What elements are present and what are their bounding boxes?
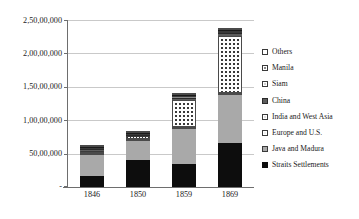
bar-segment-java-and-madura <box>126 140 150 160</box>
legend-swatch-india-and-west-asia-icon <box>262 114 268 120</box>
y-axis-tick-label: 2,00,00,000 <box>0 50 62 58</box>
bar-segment-straits-settlements <box>80 176 104 187</box>
x-axis-tick-label: 1869 <box>210 190 250 200</box>
legend-item-manila[interactable]: Manila <box>262 60 358 76</box>
stacked-bar-chart: 2,50,00,000 2,00,00,000 1,50,00,000 1,00… <box>0 0 359 219</box>
bar-segment-java-and-madura <box>218 94 242 143</box>
bar-1869[interactable] <box>218 28 242 187</box>
legend-item-europe-and-us[interactable]: Europe and U.S. <box>262 125 358 141</box>
y-axis-tick <box>64 20 68 21</box>
chart-legend: Others Manila Siam China India and West … <box>262 44 358 174</box>
y-axis-tick-label: 1,50,00,000 <box>0 83 62 91</box>
legend-swatch-others-icon <box>262 49 268 55</box>
legend-item-others[interactable]: Others <box>262 44 358 60</box>
y-axis-tick <box>64 53 68 54</box>
x-axis-tick-label: 1859 <box>164 190 204 200</box>
legend-label: Siam <box>272 80 288 88</box>
legend-swatch-siam-icon <box>262 81 268 87</box>
legend-label: India and West Asia <box>272 113 333 121</box>
legend-item-china[interactable]: China <box>262 93 358 109</box>
bar-1850[interactable] <box>126 131 150 187</box>
x-axis-tick-label: 1850 <box>118 190 158 200</box>
legend-label: Manila <box>272 64 294 72</box>
legend-item-siam[interactable]: Siam <box>262 76 358 92</box>
legend-item-straits-settlements[interactable]: Straits Settlements <box>262 157 358 173</box>
legend-swatch-europe-and-us-icon <box>262 130 268 136</box>
bar-segment-straits-settlements <box>126 160 150 187</box>
y-axis-tick <box>64 87 68 88</box>
y-axis-labels: 2,50,00,000 2,00,00,000 1,50,00,000 1,00… <box>0 0 62 219</box>
legend-label: China <box>272 97 290 105</box>
x-axis-line <box>63 187 254 188</box>
legend-swatch-straits-settlements-icon <box>262 162 268 168</box>
gridline <box>68 20 254 21</box>
legend-item-java-and-madura[interactable]: Java and Madura <box>262 141 358 157</box>
legend-swatch-java-and-madura-icon <box>262 146 268 152</box>
y-axis-tick-label: 50,00,000 <box>0 150 62 158</box>
y-axis-tick <box>64 154 68 155</box>
legend-label: Java and Madura <box>272 145 324 153</box>
legend-label: Others <box>272 48 292 56</box>
bar-1859[interactable] <box>172 93 196 187</box>
y-axis-tick-label: 1,00,00,000 <box>0 117 62 125</box>
bar-segment-straits-settlements <box>172 164 196 187</box>
legend-item-india-and-west-asia[interactable]: India and West Asia <box>262 109 358 125</box>
y-axis-line <box>67 20 68 187</box>
bar-segment-india-and-west-asia <box>172 100 196 126</box>
plot-area <box>68 20 254 187</box>
bar-segment-india-and-west-asia <box>218 36 242 92</box>
legend-swatch-manila-icon <box>262 65 268 71</box>
x-axis-labels: 1846 1850 1859 1869 <box>68 190 254 206</box>
bar-segment-straits-settlements <box>218 143 242 187</box>
y-axis-tick-label: - <box>0 183 62 191</box>
bar-1846[interactable] <box>80 145 104 187</box>
legend-label: Straits Settlements <box>272 161 329 169</box>
y-axis-tick <box>64 120 68 121</box>
bar-segment-java-and-madura <box>80 154 104 176</box>
x-axis-tick-label: 1846 <box>72 190 112 200</box>
legend-label: Europe and U.S. <box>272 129 322 137</box>
legend-swatch-china-icon <box>262 98 268 104</box>
y-axis-tick-label: 2,50,00,000 <box>0 17 62 25</box>
y-axis-tick <box>64 186 68 187</box>
bar-segment-java-and-madura <box>172 128 196 165</box>
